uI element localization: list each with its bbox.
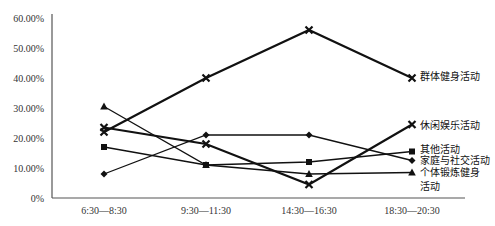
x-tick-label: 14:30—16:30 [281,205,337,216]
diamond-marker-icon [101,171,108,178]
diamond-marker-icon [203,132,210,139]
y-tick-label: 60.00% [13,13,44,24]
legend-label: 个体锻炼健身 [420,166,480,178]
triangle-marker-icon [100,103,108,110]
x-axis: 6:30—8:309:30—11:3014:30—16:3018:30—20:3… [52,198,465,216]
y-tick-label: 0% [31,193,44,204]
legend-label: 其他活动 [420,143,460,155]
y-tick-label: 10.00% [13,163,44,174]
legend-label: 活动 [420,181,440,192]
y-tick-label: 50.00% [13,43,44,54]
diamond-marker-icon [306,132,313,139]
line-chart: 0%10.00%20.00%30.00%40.00%50.00%60.00% 6… [0,0,495,226]
legend-label: 家庭与社交活动 [420,154,490,166]
square-marker-icon [306,159,312,165]
square-marker-icon [101,144,107,150]
legend-label: 群体健身活动 [420,70,480,82]
square-marker-icon [409,149,415,155]
x-marker-icon [409,121,416,128]
series-lines [100,27,416,189]
x-tick-label: 18:30—20:30 [384,205,440,216]
x-tick-label: 6:30—8:30 [81,205,127,216]
diamond-marker-icon [409,157,416,164]
y-axis: 0%10.00%20.00%30.00%40.00%50.00%60.00% [13,13,52,204]
series-0 [101,27,416,136]
y-tick-label: 20.00% [13,133,44,144]
legend: 群体健身活动休闲娱乐活动其他活动家庭与社交活动个体锻炼健身活动 [420,70,490,192]
legend-label: 休闲娱乐活动 [420,119,480,131]
y-tick-label: 40.00% [13,73,44,84]
x-tick-label: 9:30—11:30 [181,205,231,216]
y-tick-label: 30.00% [13,103,44,114]
series-4 [100,103,416,178]
